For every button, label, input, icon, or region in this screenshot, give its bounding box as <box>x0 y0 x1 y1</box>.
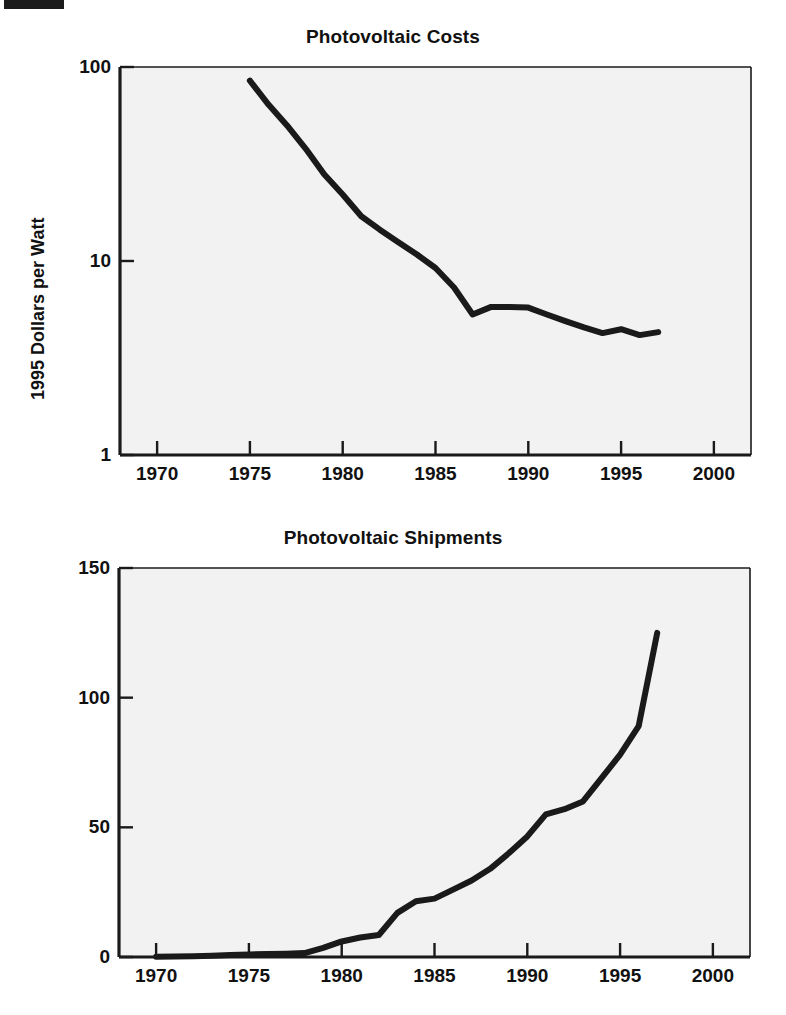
y-tick-label: 0 <box>99 946 110 968</box>
x-tick-label: 1970 <box>135 965 177 987</box>
plot-canvas-shipments <box>0 500 786 1015</box>
x-tick-label: 1970 <box>136 463 178 485</box>
y-tick-label: 10 <box>90 250 111 272</box>
y-tick-label: 1 <box>100 444 111 466</box>
x-tick-label: 1985 <box>413 965 455 987</box>
y-tick-label: 50 <box>89 816 110 838</box>
x-tick-label: 1980 <box>321 965 363 987</box>
x-tick-label: 1995 <box>600 463 642 485</box>
x-tick-label: 1975 <box>229 463 271 485</box>
y-tick-label: 150 <box>78 557 110 579</box>
y-tick-label: 100 <box>78 687 110 709</box>
figure-page: Photovoltaic Costs 1995 Dollars per Watt… <box>0 0 786 1015</box>
x-tick-label: 2000 <box>692 965 734 987</box>
y-tick-label: 100 <box>79 56 111 78</box>
chart-photovoltaic-costs: Photovoltaic Costs 1995 Dollars per Watt… <box>0 0 786 500</box>
x-tick-label: 1985 <box>414 463 456 485</box>
x-tick-label: 1980 <box>322 463 364 485</box>
chart-photovoltaic-shipments: Photovoltaic Shipments Annual Megawatts … <box>0 500 786 1015</box>
plot-canvas-costs <box>0 0 786 500</box>
x-tick-label: 1990 <box>506 965 548 987</box>
x-tick-label: 1975 <box>228 965 270 987</box>
x-tick-label: 2000 <box>693 463 735 485</box>
x-tick-label: 1990 <box>507 463 549 485</box>
x-tick-label: 1995 <box>599 965 641 987</box>
